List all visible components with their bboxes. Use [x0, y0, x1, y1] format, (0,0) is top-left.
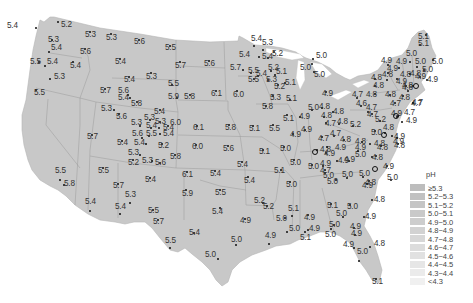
station-ring-marker — [372, 166, 378, 172]
station-ph-value: 5.4 — [145, 176, 156, 184]
station-ph-value: 5.8 — [170, 153, 181, 161]
station-ph-value: 4.9 — [362, 182, 373, 190]
station-ph-value: 5.4 — [51, 44, 62, 52]
station-ph-value: 4.7 — [412, 99, 423, 107]
station-ph-value: 5.0 — [336, 210, 347, 218]
station-ph-value: 5.0 — [286, 181, 297, 189]
station-ph-value: 4.8 — [394, 142, 405, 150]
station-ring-marker — [312, 149, 318, 155]
station-ph-value: 5.1 — [249, 125, 260, 133]
station-ph-value: 5.4 — [154, 108, 165, 116]
station-ph-value: 5.6 — [155, 159, 166, 167]
station-ph-value: 4.9 — [427, 76, 438, 84]
station-ph-value: 4.8 — [383, 124, 394, 132]
station-ph-value: 5.0 — [300, 64, 311, 72]
station-ph-value: 4.8 — [374, 196, 385, 204]
station-ph-value: 5.4 — [239, 51, 250, 59]
station-ph-value: 4.9 — [240, 217, 251, 225]
station-ph-value: 5.5 — [269, 125, 280, 133]
station-ph-value: 4.9 — [301, 126, 312, 134]
station-ph-value: 5.4 — [115, 203, 126, 211]
station-ph-value: 4.7 — [352, 91, 363, 99]
station-ph-value: 5.4 — [163, 130, 174, 138]
station-ph-value: 4.9 — [320, 160, 331, 168]
station-ph-value: 5.2 — [61, 21, 72, 29]
station-ph-value: 5.0 — [231, 236, 242, 244]
legend-swatch — [410, 235, 425, 242]
station-ph-value: 5.0 — [205, 251, 216, 259]
station-ph-value: 4.8 — [340, 136, 351, 144]
station-ph-value: 5.0 — [316, 52, 327, 60]
station-ph-value: 5.1 — [274, 167, 285, 175]
station-ph-value: 4.9 — [415, 73, 426, 81]
station-ph-value: 5.9 — [168, 93, 179, 101]
station-ph-value: 5.7 — [175, 62, 186, 70]
station-ph-value: 4.7 — [318, 135, 329, 143]
station-ph-value: 4.8 — [355, 138, 366, 146]
station-ph-value: 5.4 — [70, 62, 81, 70]
station-ph-value: 5.6 — [223, 145, 234, 153]
legend-swatch — [410, 244, 425, 251]
station-ph-value: 5.1 — [285, 79, 296, 87]
station-ph-value: 5.1 — [286, 95, 297, 103]
station-ph-value: 5.6 — [134, 38, 145, 46]
station-ph-value: 5.0 — [359, 170, 370, 178]
station-ph-value: 5.0 — [289, 225, 300, 233]
legend-swatch — [410, 201, 425, 208]
station-ph-value: 6.0 — [192, 143, 203, 151]
station-ph-value: 5.4 — [85, 198, 96, 206]
station-ph-value: 6.1 — [211, 90, 222, 98]
station-ph-value: 6.0 — [233, 91, 244, 99]
station-ph-value: 5.6 — [116, 113, 127, 121]
legend-swatch — [410, 218, 425, 225]
station-ph-value: 4.8 — [373, 82, 384, 90]
station-ph-value: 5.2 — [128, 159, 139, 167]
station-ph-value: 5.3 — [131, 119, 142, 127]
station-ph-value: 4.8 — [319, 103, 330, 111]
station-ph-value: 5.4 — [251, 35, 262, 43]
station-ph-value: 5.2 — [158, 142, 169, 150]
legend-swatch — [410, 210, 425, 217]
station-ph-value: 5.6 — [132, 130, 143, 138]
station-ph-value: 4.9 — [265, 232, 276, 240]
station-ph-value: 5.1 — [300, 234, 311, 242]
station-ph-value: 4.9 — [290, 131, 301, 139]
station-ph-value: 5.1 — [283, 115, 294, 123]
station-ph-value: 5.3 — [128, 149, 139, 157]
station-ph-value: 5.1 — [372, 278, 383, 286]
legend-swatch — [410, 278, 425, 285]
station-ph-value: 5.5 — [168, 80, 179, 88]
station-ph-value: 4.9 — [365, 213, 376, 221]
station-ph-value: 5.5 — [215, 189, 226, 197]
station-ph-value: 5.7 — [230, 64, 241, 72]
station-ph-value: 5.4 — [47, 58, 58, 66]
station-ph-value: 5.5 — [55, 167, 66, 175]
us-map — [0, 0, 473, 303]
station-ph-value: 5.0 — [323, 172, 334, 180]
legend-title: pH — [426, 170, 436, 179]
station-ph-value: 5.8 — [184, 93, 195, 101]
station-ring-marker — [393, 113, 399, 119]
station-ph-value: 4.7 — [325, 120, 336, 128]
station-ph-value: 5.0 — [290, 159, 301, 167]
station-ph-value: 4.9 — [338, 157, 349, 165]
station-ph-value: 5.7 — [87, 133, 98, 141]
station-ph-value: 5.0 — [314, 71, 325, 79]
station-ph-value: 5.4 — [7, 22, 18, 30]
station-ph-value: 5.6 — [80, 48, 91, 56]
station-ph-value: 5.0 — [347, 203, 358, 211]
station-ph-value: 5.7 — [113, 182, 124, 190]
station-ph-value: 5.1 — [259, 148, 270, 156]
station-ph-value: 4.7 — [367, 111, 378, 119]
station-ph-value: 5.4 — [212, 208, 223, 216]
legend-swatch — [410, 269, 425, 276]
legend-swatch — [410, 184, 425, 191]
station-ph-value: 5.4 — [124, 76, 135, 84]
station-ph-value: 5.0 — [308, 163, 319, 171]
station-ph-value: 4.8 — [366, 91, 377, 99]
station-ph-value: 5.7 — [100, 87, 111, 95]
legend-swatch — [410, 261, 425, 268]
station-ph-value: 5.1 — [276, 68, 287, 76]
station-ph-value: 5.6 — [204, 60, 215, 68]
station-ph-value: 5.0 — [357, 248, 368, 256]
